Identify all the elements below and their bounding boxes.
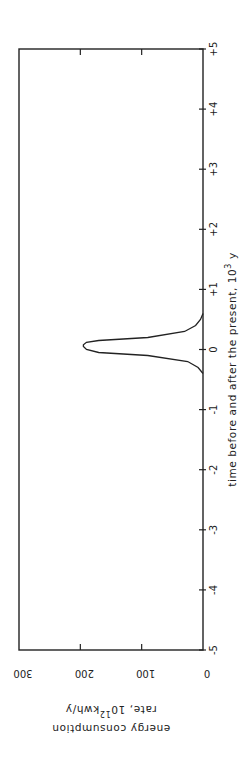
- x-tick-label: +1: [208, 282, 219, 297]
- x-tick-label: -4: [208, 585, 219, 595]
- x-axis-label: time before and after the present, 103 y: [224, 252, 238, 487]
- x-tick-label: +2: [208, 222, 219, 237]
- x-tick-label: -3: [208, 525, 219, 535]
- y-axis-label-line1: energy consumption: [52, 723, 171, 735]
- x-tick-label: -2: [208, 465, 219, 475]
- x-tick-label: -5: [208, 645, 219, 655]
- x-tick-label: +4: [208, 102, 219, 117]
- plot-area: [19, 49, 203, 650]
- y-tick-label: 100: [136, 668, 155, 679]
- x-tick-label: 0: [208, 346, 219, 352]
- chart: -5-4-3-2-10+1+2+3+4+50100200300 time bef…: [0, 0, 246, 762]
- y-tick-label: 200: [75, 668, 94, 679]
- plot-frame: [19, 49, 203, 650]
- x-tick-label: +3: [208, 162, 219, 177]
- axis-ticks: [80, 49, 206, 650]
- y-tick-label: 300: [13, 668, 32, 679]
- tick-labels: -5-4-3-2-10+1+2+3+4+50100200300: [13, 42, 219, 679]
- x-tick-label: -1: [208, 405, 219, 415]
- y-axis-label-line2: rate, 1012kwh/y: [65, 704, 157, 718]
- y-tick-label: 0: [204, 668, 210, 679]
- data-line: [83, 313, 203, 373]
- x-tick-label: +5: [208, 42, 219, 57]
- axis-labels: time before and after the present, 103 y…: [52, 252, 238, 735]
